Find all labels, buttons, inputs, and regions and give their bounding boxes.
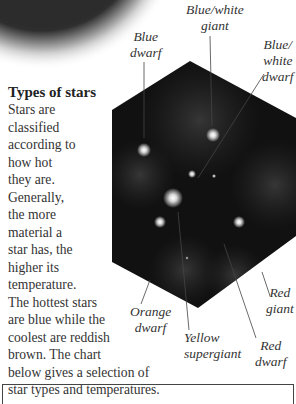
body-line: Stars are: [8, 101, 160, 119]
body-line: how hot: [8, 154, 160, 172]
label-yellow-supergiant: Yellow supergiant: [184, 330, 241, 362]
body-line: below gives a selection of: [8, 364, 160, 382]
star-blue-white-giant: [206, 128, 220, 142]
body-line: the more: [8, 206, 160, 224]
label-orange-dwarf: Orange dwarf: [130, 304, 171, 336]
label-blue-white-giant: Blue/white giant: [186, 2, 244, 34]
label-red-dwarf: Red dwarf: [255, 338, 287, 370]
body-line: according to: [8, 136, 160, 154]
body-line: material a: [8, 224, 160, 242]
chart-box-top-border: [2, 384, 294, 404]
body-line: brown. The chart: [8, 346, 160, 364]
body-line: star has, the: [8, 241, 160, 259]
body-line: Generally,: [8, 189, 160, 207]
star-medium-right: [233, 216, 245, 228]
body-line: higher its: [8, 259, 160, 277]
label-blue-dwarf: Blue dwarf: [130, 29, 162, 61]
label-blue-white-dwarf: Blue/ white dwarf: [262, 37, 294, 85]
section-heading: Types of stars: [8, 84, 96, 101]
body-line: classified: [8, 119, 160, 137]
star-bright: [163, 188, 183, 208]
body-paragraph: Stars are classified according to how ho…: [8, 101, 160, 399]
label-red-giant: Red giant: [266, 285, 294, 317]
star-small: [188, 170, 196, 178]
body-line: they are.: [8, 171, 160, 189]
body-line: temperature.: [8, 276, 160, 294]
